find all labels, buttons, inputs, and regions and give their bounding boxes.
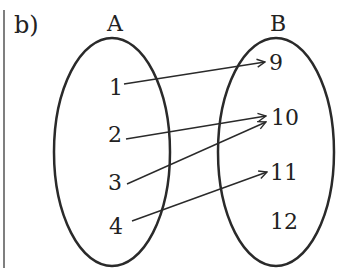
- set-a-element: 2: [108, 122, 122, 147]
- set-b-element: 9: [269, 50, 283, 75]
- arrow-3-to-10: [127, 122, 266, 184]
- set-b-label: B: [270, 11, 286, 36]
- mapping-diagram: b) A B 1 2 3 4 9 10 11 12: [0, 0, 337, 268]
- set-b-element: 12: [270, 209, 298, 234]
- part-label: b): [14, 11, 39, 39]
- arrow-1-to-9: [124, 62, 265, 84]
- set-a-element: 4: [109, 214, 123, 239]
- set-b-element: 10: [271, 105, 299, 130]
- arrow-2-to-10: [126, 116, 266, 139]
- set-b-element: 11: [270, 160, 298, 185]
- set-a-element: 1: [109, 75, 123, 100]
- set-a-element: 3: [108, 170, 122, 195]
- arrow-4-to-11: [132, 172, 267, 221]
- set-a-label: A: [106, 11, 124, 36]
